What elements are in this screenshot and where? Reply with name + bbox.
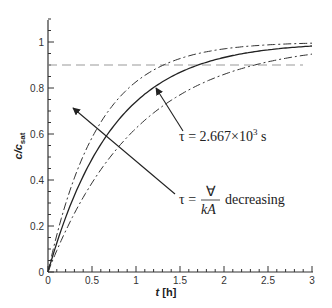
curve-solid xyxy=(48,46,312,272)
y-axis-label: c/csat xyxy=(12,132,27,159)
svg-text:3: 3 xyxy=(309,275,315,286)
svg-text:1: 1 xyxy=(38,37,44,48)
chart: 00.511.522.5300.20.40.60.81 τ = 2.667×10… xyxy=(0,0,332,308)
svg-text:2: 2 xyxy=(221,275,227,286)
annotation-tau-value: τ = 2.667×103 s xyxy=(179,127,266,144)
curve-upper xyxy=(48,43,312,272)
svg-text:τ =: τ = xyxy=(179,192,196,207)
arrow-tau-decreasing xyxy=(73,108,175,194)
svg-text:1: 1 xyxy=(133,275,139,286)
svg-text:0.5: 0.5 xyxy=(85,275,99,286)
svg-text:0.8: 0.8 xyxy=(30,83,44,94)
svg-text:0: 0 xyxy=(38,267,44,278)
tick-labels: 00.511.522.5300.20.40.60.81 xyxy=(30,37,315,286)
svg-text:decreasing: decreasing xyxy=(225,192,285,207)
svg-text:∀: ∀ xyxy=(206,184,216,199)
curve-lower xyxy=(48,54,312,272)
svg-text:1.5: 1.5 xyxy=(173,275,187,286)
svg-text:0.6: 0.6 xyxy=(30,129,44,140)
x-axis-label: t [h] xyxy=(156,286,177,298)
svg-text:2.5: 2.5 xyxy=(261,275,275,286)
arrow-tau-value xyxy=(156,88,183,131)
svg-text:0: 0 xyxy=(45,275,51,286)
svg-text:0.4: 0.4 xyxy=(30,175,44,186)
svg-text:0.2: 0.2 xyxy=(30,221,44,232)
annotation-tau-decreasing: τ = ∀ kA decreasing xyxy=(179,184,285,217)
svg-text:kA: kA xyxy=(201,202,216,217)
